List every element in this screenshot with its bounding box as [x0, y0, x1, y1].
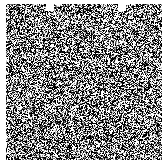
noise-image	[6, 4, 162, 160]
white-notch-right	[118, 4, 126, 11]
white-notch-left	[46, 4, 54, 11]
